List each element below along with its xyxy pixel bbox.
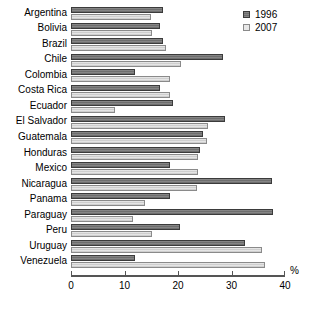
bar-2007 xyxy=(71,200,145,206)
category-label: Venezuela xyxy=(0,256,67,266)
bar-2007 xyxy=(71,76,170,82)
bar-group xyxy=(71,161,285,177)
bar-2007 xyxy=(71,216,133,222)
bar-1996 xyxy=(71,85,160,91)
category-label: Mexico xyxy=(0,163,67,173)
bar-group xyxy=(71,130,285,146)
category-label: Nicaragua xyxy=(0,179,67,189)
bar-group xyxy=(71,239,285,255)
bar-1996 xyxy=(71,131,203,137)
bar-1996 xyxy=(71,162,170,168)
bar-2007 xyxy=(71,61,181,67)
axis-tick xyxy=(125,271,126,276)
axis-unit-label: % xyxy=(290,266,299,276)
bar-group xyxy=(71,254,285,270)
bar-group xyxy=(71,68,285,84)
bar-2007 xyxy=(71,154,198,160)
legend-label-1996: 1996 xyxy=(255,9,277,21)
axis-tick-label: 10 xyxy=(119,281,130,291)
category-label: Bolivia xyxy=(0,23,67,33)
axis-tick xyxy=(284,271,285,276)
category-label: Colombia xyxy=(0,70,67,80)
bar-1996 xyxy=(71,255,135,261)
category-label: Guatemala xyxy=(0,132,67,142)
axis-tick-label: 30 xyxy=(226,281,237,291)
legend-label-2007: 2007 xyxy=(255,22,277,34)
bar-1996 xyxy=(71,224,180,230)
bar-1996 xyxy=(71,116,225,122)
category-label: Brazil xyxy=(0,39,67,49)
axis-tick xyxy=(178,271,179,276)
axis-tick-label: 20 xyxy=(172,281,183,291)
bar-2007 xyxy=(71,262,265,268)
category-label: Honduras xyxy=(0,148,67,158)
bar-group xyxy=(71,192,285,208)
bar-chart: ArgentinaBoliviaBrazilChileColombiaCosta… xyxy=(0,0,313,311)
category-axis-labels: ArgentinaBoliviaBrazilChileColombiaCosta… xyxy=(0,6,67,270)
bar-group xyxy=(71,99,285,115)
bar-group xyxy=(71,37,285,53)
bar-2007 xyxy=(71,45,166,51)
category-label: Argentina xyxy=(0,8,67,18)
category-label: Costa Rica xyxy=(0,85,67,95)
category-label: Ecuador xyxy=(0,101,67,111)
legend-item-2007: 2007 xyxy=(243,21,277,34)
bar-2007 xyxy=(71,247,262,253)
bar-2007 xyxy=(71,123,208,129)
bar-1996 xyxy=(71,209,273,215)
category-label: Paraguay xyxy=(0,210,67,220)
bar-1996 xyxy=(71,23,160,29)
bar-1996 xyxy=(71,178,272,184)
category-label: Panama xyxy=(0,194,67,204)
bar-2007 xyxy=(71,169,198,175)
axis-tick xyxy=(232,271,233,276)
bar-2007 xyxy=(71,30,152,36)
bar-1996 xyxy=(71,147,200,153)
bar-group xyxy=(71,146,285,162)
bar-2007 xyxy=(71,14,151,20)
bar-2007 xyxy=(71,92,170,98)
axis-tick xyxy=(71,271,72,276)
category-label: Uruguay xyxy=(0,241,67,251)
bar-group xyxy=(71,84,285,100)
bar-1996 xyxy=(71,7,163,13)
category-label: El Salvador xyxy=(0,116,67,126)
legend: 1996 2007 xyxy=(243,8,277,34)
legend-swatch-1996 xyxy=(243,11,250,18)
bar-group xyxy=(71,208,285,224)
bar-1996 xyxy=(71,193,170,199)
legend-swatch-2007 xyxy=(243,24,250,31)
value-axis xyxy=(71,275,285,277)
bar-1996 xyxy=(71,54,223,60)
bar-group xyxy=(71,177,285,193)
bar-1996 xyxy=(71,69,135,75)
axis-tick-label: 0 xyxy=(68,281,74,291)
bar-group xyxy=(71,53,285,69)
legend-item-1996: 1996 xyxy=(243,8,277,21)
bar-group xyxy=(71,115,285,131)
bar-1996 xyxy=(71,100,173,106)
category-label: Peru xyxy=(0,225,67,235)
plot-area xyxy=(71,6,285,270)
bar-1996 xyxy=(71,38,163,44)
bar-2007 xyxy=(71,107,115,113)
category-label: Chile xyxy=(0,54,67,64)
axis-tick-label: 40 xyxy=(279,281,290,291)
bar-1996 xyxy=(71,240,245,246)
bar-2007 xyxy=(71,138,207,144)
bar-2007 xyxy=(71,231,152,237)
bar-2007 xyxy=(71,185,197,191)
bar-group xyxy=(71,223,285,239)
